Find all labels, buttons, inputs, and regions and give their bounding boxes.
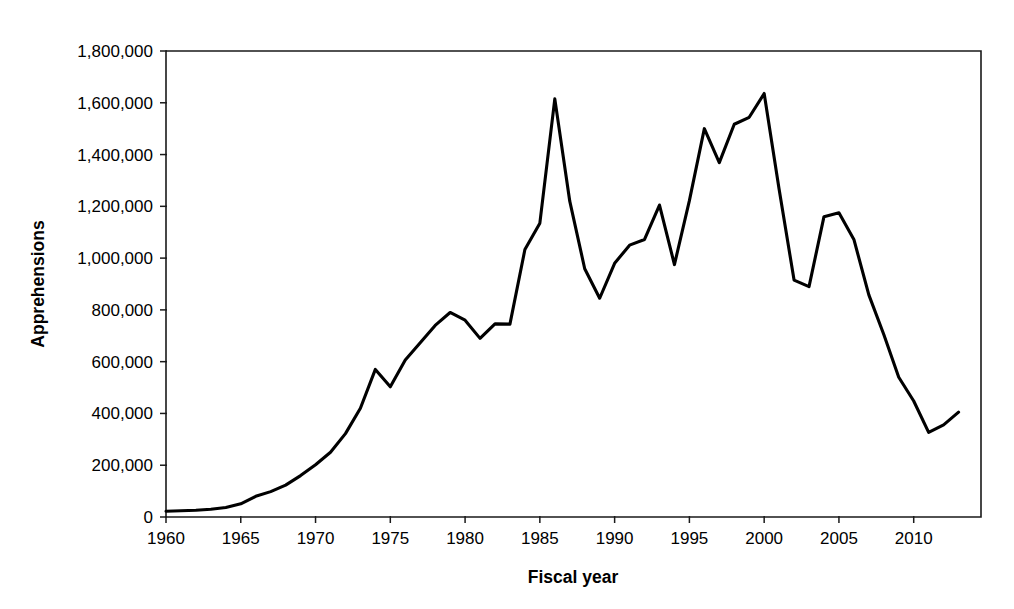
y-tick-label: 800,000 (92, 301, 153, 320)
plot-frame (166, 51, 981, 517)
y-axis-title: Apprehensions (28, 220, 48, 348)
x-tick-label: 1980 (446, 529, 484, 548)
y-tick-label: 400,000 (92, 404, 153, 423)
data-series-layer (166, 93, 959, 511)
data-line-apprehensions (166, 93, 959, 511)
y-tick-label: 1,200,000 (77, 197, 153, 216)
plot-border (166, 51, 981, 517)
x-tick-label: 1970 (297, 529, 335, 548)
y-tick-label: 200,000 (92, 456, 153, 475)
x-tick-label: 1990 (596, 529, 634, 548)
y-tick-label: 1,600,000 (77, 94, 153, 113)
y-tick-label: 600,000 (92, 353, 153, 372)
x-tick-label: 1995 (670, 529, 708, 548)
y-axis-tick-labels: 0200,000400,000600,000800,0001,000,0001,… (77, 42, 153, 527)
apprehensions-line-chart: 0200,000400,000600,000800,0001,000,0001,… (0, 0, 1014, 609)
x-tick-label: 1975 (371, 529, 409, 548)
y-tick-label: 1,000,000 (77, 249, 153, 268)
x-tick-label: 1985 (521, 529, 559, 548)
x-tick-label: 2000 (745, 529, 783, 548)
y-tick-label: 0 (144, 508, 153, 527)
x-tick-label: 1965 (222, 529, 260, 548)
x-tick-label: 2005 (820, 529, 858, 548)
x-tick-label: 1960 (147, 529, 185, 548)
x-axis-tick-labels: 1960196519701975198019851990199520002005… (147, 529, 933, 548)
x-tick-label: 2010 (895, 529, 933, 548)
chart-canvas: 0200,000400,000600,000800,0001,000,0001,… (0, 0, 1014, 609)
y-tick-label: 1,400,000 (77, 146, 153, 165)
y-tick-label: 1,800,000 (77, 42, 153, 61)
x-axis-title: Fiscal year (528, 567, 619, 587)
